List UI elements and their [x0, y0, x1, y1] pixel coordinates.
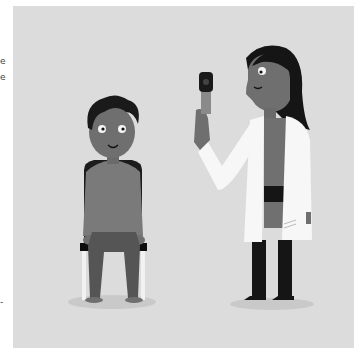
doctor-shadow [230, 298, 314, 310]
chair-leg [141, 248, 145, 300]
boy-pants [88, 232, 140, 298]
doctor-leg [278, 240, 292, 300]
doctor-patient-illustration [0, 0, 362, 359]
chair-leg [82, 248, 86, 300]
boy-shirt [83, 160, 143, 236]
doctor-leg [252, 240, 266, 300]
otoscope-icon [201, 92, 211, 114]
doctor-shirt [264, 118, 286, 228]
